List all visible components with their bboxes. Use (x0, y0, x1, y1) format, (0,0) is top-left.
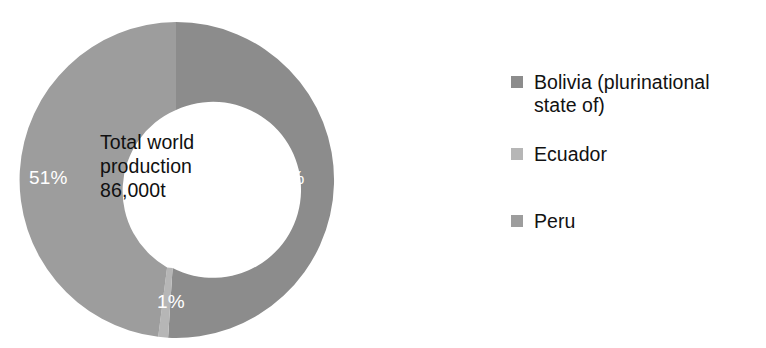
slice-value-label-ecuador: 1% (157, 292, 185, 312)
donut-center-label-line1: Total world (100, 130, 250, 154)
donut-chart-plot-area: Total world production 86,000t 48% 1% 51… (0, 0, 380, 348)
legend-label-ecuador: Ecuador (534, 143, 607, 166)
legend-label-bolivia: Bolivia (plurinationalstate of) (534, 71, 710, 117)
legend-swatch-icon-peru (511, 215, 523, 227)
legend-item-bolivia[interactable]: Bolivia (plurinationalstate of) (511, 71, 756, 117)
legend-label-peru: Peru (534, 210, 575, 233)
legend-swatch-icon-ecuador (511, 148, 523, 160)
legend-item-ecuador[interactable]: Ecuador (511, 143, 756, 166)
legend-label-bolivia-line1: Bolivia (plurinational (534, 71, 710, 93)
donut-center-label-line2: production (100, 154, 250, 178)
legend-item-peru[interactable]: Peru (511, 210, 756, 233)
donut-center-label-line3: 86,000t (100, 178, 250, 202)
chart-legend: Bolivia (plurinationalstate of) Ecuador … (511, 71, 756, 233)
donut-chart-figure: Total world production 86,000t 48% 1% 51… (0, 0, 766, 348)
slice-value-label-peru: 51% (29, 168, 68, 188)
legend-swatch-icon-bolivia (511, 76, 523, 88)
slice-value-label-bolivia: 48% (266, 168, 305, 188)
donut-center-label: Total world production 86,000t (100, 130, 250, 202)
legend-label-bolivia-line2: state of) (534, 94, 605, 116)
